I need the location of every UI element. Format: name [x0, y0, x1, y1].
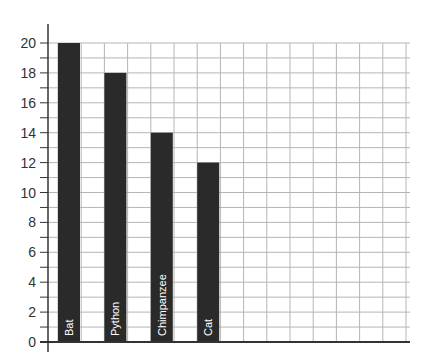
y-tick-label: 16	[20, 95, 36, 111]
y-tick-label: 6	[28, 244, 36, 260]
y-tick-label: 0	[28, 334, 36, 350]
y-tick-label: 14	[20, 125, 36, 141]
y-tick-label: 8	[28, 214, 36, 230]
bar-label-chimpanzee: Chimpanzee	[156, 274, 168, 336]
y-axis-ticks: 02468101214161820	[20, 35, 48, 350]
bar-cat	[197, 163, 219, 342]
y-tick-label: 4	[28, 274, 36, 290]
bar-chart: BatPythonChimpanzeeCat 02468101214161820	[0, 0, 448, 364]
y-tick-label: 2	[28, 304, 36, 320]
bar-label-cat: Cat	[202, 319, 214, 336]
bar-bat	[58, 43, 80, 342]
bar-label-bat: Bat	[63, 319, 75, 336]
y-tick-label: 12	[20, 155, 36, 171]
bar-label-python: Python	[109, 302, 121, 336]
y-tick-label: 20	[20, 35, 36, 51]
grid-lines	[48, 43, 410, 342]
bar-python	[104, 73, 126, 342]
y-tick-label: 18	[20, 65, 36, 81]
y-tick-label: 10	[20, 185, 36, 201]
